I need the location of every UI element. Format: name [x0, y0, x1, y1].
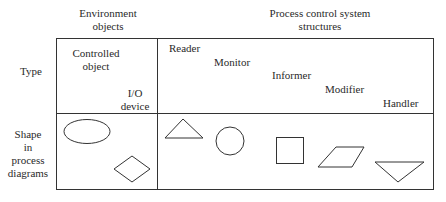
header-line: Environment — [58, 7, 158, 20]
row-label-line: diagrams — [2, 167, 54, 180]
environment-objects-header: Environment objects — [58, 7, 158, 33]
row-label-line: in — [2, 141, 54, 154]
handler-triangle-down-icon — [375, 162, 424, 182]
label-line: device — [115, 100, 155, 113]
informer-square-icon — [277, 138, 304, 164]
io-device-label: I/O device — [115, 87, 155, 113]
header-line: structures — [240, 20, 400, 33]
label-line: Controlled — [68, 47, 124, 60]
process-structures-header: Process control system structures — [240, 7, 400, 33]
header-line: objects — [58, 20, 158, 33]
informer-label: Informer — [272, 69, 311, 82]
row-label-shape: Shape in process diagrams — [2, 128, 54, 180]
modifier-parallelogram-icon — [318, 147, 364, 167]
reader-triangle-icon — [165, 119, 203, 138]
controlled-object-label: Controlled object — [68, 47, 124, 73]
row-label-line: process — [2, 154, 54, 167]
label-line: I/O — [115, 87, 155, 100]
row-label-type: Type — [14, 65, 48, 78]
header-line: Process control system — [240, 7, 400, 20]
handler-label: Handler — [383, 97, 418, 110]
monitor-label: Monitor — [214, 56, 250, 69]
reader-label: Reader — [169, 42, 200, 55]
io-device-diamond-icon — [114, 156, 150, 182]
row-label-line: Shape — [2, 128, 54, 141]
label-line: object — [68, 60, 124, 73]
modifier-label: Modifier — [325, 83, 364, 96]
monitor-circle-icon — [216, 127, 244, 155]
controlled-object-ellipse-icon — [64, 120, 110, 144]
